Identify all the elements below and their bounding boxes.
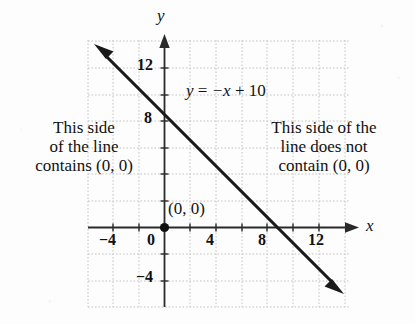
x-tick-label-12: 12 [308, 231, 324, 249]
right-region-note-line-1: This side of the [240, 118, 408, 137]
left-region-note-line-2: of the line [14, 137, 154, 156]
equation-lhs: y [186, 81, 194, 100]
right-region-note-line-3: contain (0, 0) [240, 156, 408, 175]
y-tick-label-12: 12 [137, 56, 153, 74]
equation-label: y = −x + 10 [186, 81, 266, 100]
x-axis-label: x [366, 216, 374, 235]
x-tick-label-4: 4 [206, 231, 214, 249]
right-region-note-line-2: line does not [240, 137, 408, 156]
origin-coordinate-label: (0, 0) [168, 199, 205, 218]
y-axis [159, 34, 169, 307]
origin-dot [160, 223, 169, 232]
x-tick-label-8: 8 [258, 231, 266, 249]
right-region-note: This side of the line does not contain (… [240, 118, 408, 175]
x-tick-label-neg-4: −4 [99, 231, 116, 249]
equation-constant: 10 [249, 81, 266, 100]
equation-equals: = [198, 81, 208, 100]
y-tick-label-neg-4: −4 [136, 268, 153, 286]
equation-plus: + [235, 81, 245, 100]
left-region-note: This side of the line contains (0, 0) [14, 118, 154, 175]
equation-rhs-term: −x [212, 81, 231, 100]
left-region-note-line-3: contains (0, 0) [14, 156, 154, 175]
left-region-note-line-1: This side [14, 118, 154, 137]
x-tick-label-0: 0 [147, 231, 155, 249]
graph-figure: y x 12 8 −4 −4 0 4 8 12 y = −x + 10 (0, … [0, 0, 415, 324]
y-axis-label: y [157, 6, 165, 25]
